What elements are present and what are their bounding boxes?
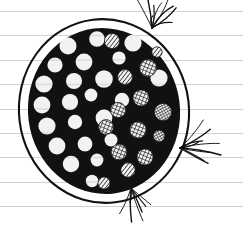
hatched-dot-cell — [99, 120, 114, 135]
ink-illustration — [0, 0, 243, 227]
hatched-dot-cell — [130, 122, 146, 138]
white-dot-cell — [76, 54, 93, 71]
white-dot-cell — [89, 31, 105, 47]
white-dot-cell — [78, 137, 93, 152]
hatched-dot-cell — [118, 70, 133, 85]
hatched-dot-cell — [104, 33, 119, 48]
white-dot-cell — [60, 38, 77, 55]
hatched-dot-cell — [110, 102, 125, 117]
white-dot-cell — [91, 154, 104, 167]
white-dot-cell — [38, 117, 55, 134]
white-dot-cell — [68, 115, 82, 129]
white-dot-cell — [66, 73, 82, 89]
hatched-dot-cell — [121, 163, 135, 177]
hatched-dot-cell — [133, 90, 149, 106]
hatched-dot-cell — [137, 149, 153, 165]
hatched-dot-cell — [154, 103, 171, 120]
white-dot-cell — [105, 134, 118, 147]
drawing-canvas — [0, 0, 243, 227]
white-dot-cell — [86, 175, 98, 187]
hatched-dot-cell — [140, 60, 157, 77]
hatched-dot-cell — [153, 130, 165, 142]
hatched-dot-cell — [152, 47, 162, 57]
white-dot-cell — [85, 89, 98, 102]
hatched-dot-cell — [98, 177, 110, 189]
hatched-dot-cell — [111, 144, 127, 160]
white-dot-cell — [34, 97, 51, 114]
white-dot-cell — [62, 94, 78, 110]
white-dot-cell — [63, 156, 79, 172]
white-dot-cell — [49, 138, 66, 155]
white-dot-cell — [112, 51, 125, 64]
white-dot-cell — [124, 34, 141, 51]
